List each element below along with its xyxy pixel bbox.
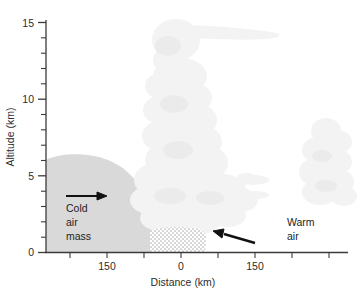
text-layer: 0 5 10 15 Altitude (km) 150 0 150 Distan… <box>0 0 359 290</box>
x-tick-label-left: 150 <box>98 260 116 272</box>
y-axis-title: Altitude (km) <box>4 108 16 167</box>
cold-air-label-line2: air <box>66 216 78 228</box>
y-tick-label-0: 0 <box>28 246 34 258</box>
cold-air-label-line3: mass <box>66 230 91 242</box>
x-tick-label-center: 0 <box>178 260 184 272</box>
y-tick-label-5: 5 <box>28 170 34 182</box>
y-tick-label-15: 15 <box>22 17 34 29</box>
warm-air-label-line1: Warm <box>287 216 315 228</box>
cold-air-label-line1: Cold <box>66 202 88 214</box>
weather-cross-section-diagram: 0 5 10 15 Altitude (km) 150 0 150 Distan… <box>0 0 359 290</box>
warm-air-label-line2: air <box>287 230 299 242</box>
x-tick-label-right: 150 <box>246 260 264 272</box>
y-tick-label-10: 10 <box>22 93 34 105</box>
x-axis-title: Distance (km) <box>151 276 216 288</box>
